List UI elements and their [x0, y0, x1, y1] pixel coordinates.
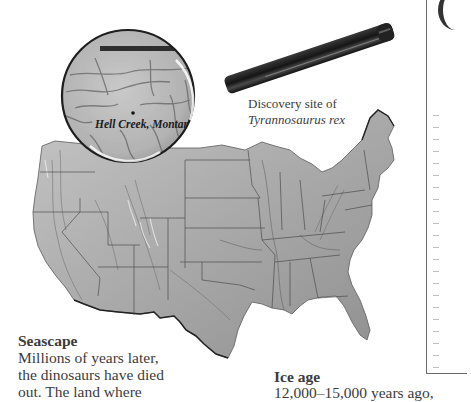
ice-age-heading: Ice age [274, 369, 434, 385]
callout-species-name: Tyrannosaurus rex [248, 112, 345, 128]
seascape-section: Seascape Millions of years later, the di… [18, 332, 218, 400]
seascape-body-line: Millions of years later, [18, 349, 218, 366]
callout-line-1: Discovery site of [248, 96, 345, 112]
discovery-callout: Discovery site of Tyrannosaurus rex [248, 96, 345, 128]
seascape-body-line: the dinosaurs have died [18, 366, 218, 383]
ice-age-body-line: 12,000–15,000 years ago, [274, 385, 434, 401]
seascape-body-line: out. The land where [18, 383, 218, 400]
ice-age-section: Ice age 12,000–15,000 years ago, [274, 369, 434, 401]
adjacent-panel-text-fragments [433, 110, 439, 370]
seascape-heading: Seascape [18, 332, 218, 349]
magnifying-glass-icon: Hell Creek, Montana [62, 22, 396, 162]
lens-location-label: Hell Creek, Montana [94, 118, 196, 130]
